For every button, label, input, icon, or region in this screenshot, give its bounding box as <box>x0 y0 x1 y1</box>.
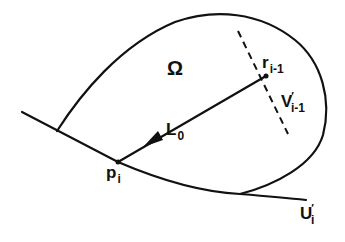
label-l-main: L <box>166 120 176 139</box>
point-r <box>264 74 269 79</box>
arrow-icon <box>143 131 163 147</box>
label-u-sub: i <box>311 213 314 227</box>
label-p: pi <box>106 164 121 181</box>
label-p-main: p <box>106 163 116 182</box>
label-omega: Ω <box>167 58 183 78</box>
path-l0 <box>118 76 266 162</box>
label-l: L0 <box>166 121 184 138</box>
label-r: ri-1 <box>262 54 284 71</box>
label-omega-main: Ω <box>167 57 183 79</box>
label-l-sub: 0 <box>177 129 184 143</box>
label-r-sub: i-1 <box>270 62 284 76</box>
label-p-sub: i <box>117 172 120 186</box>
label-u: U′i <box>300 205 314 222</box>
label-r-main: r <box>262 53 269 72</box>
label-v-sub: i-1 <box>291 101 305 115</box>
label-v: V′i-1 <box>281 93 305 110</box>
dashed-line-v <box>238 31 288 134</box>
